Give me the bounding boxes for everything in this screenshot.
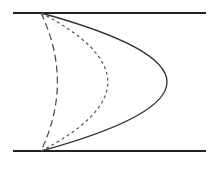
velocity-profile-diagram	[0, 0, 219, 169]
velocity-profile-solid	[41, 13, 167, 151]
velocity-profile-short-dashed	[41, 13, 108, 151]
velocity-profile-long-dashed	[41, 13, 57, 151]
